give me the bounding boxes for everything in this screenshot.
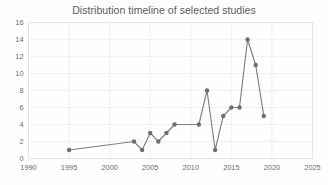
data-point-marker	[164, 131, 168, 135]
data-point-marker	[205, 88, 209, 92]
y-axis-tick-label: 12	[15, 52, 23, 61]
data-point-marker	[140, 148, 144, 152]
data-point-marker	[197, 122, 201, 126]
data-point-marker	[132, 139, 136, 143]
x-axis-tick-label: 2005	[142, 163, 158, 172]
y-axis-tick-label: 14	[15, 35, 23, 44]
x-axis-tick-label: 2000	[101, 163, 117, 172]
x-axis-tick-label: 1990	[20, 163, 36, 172]
x-axis-tick-label: 2015	[223, 163, 239, 172]
data-point-marker	[262, 114, 266, 118]
chart-container: Distribution timeline of selected studie…	[0, 0, 328, 185]
y-axis-tick-label: 8	[19, 86, 23, 95]
data-point-marker	[67, 148, 71, 152]
y-axis-tick-label: 6	[19, 103, 23, 112]
data-point-marker	[156, 139, 160, 143]
x-axis-tick-label: 2020	[264, 163, 280, 172]
data-point-marker	[148, 131, 152, 135]
data-point-marker	[254, 63, 258, 67]
x-axis-tick-label: 2010	[183, 163, 199, 172]
x-axis-tick-label: 2025	[304, 163, 320, 172]
x-axis-tick-label: 1995	[61, 163, 77, 172]
data-point-marker	[221, 114, 225, 118]
y-axis-tick-label: 4	[19, 120, 23, 129]
data-point-marker	[172, 122, 176, 126]
y-axis-tick-label: 16	[15, 18, 23, 27]
line-chart-plot: 0246810121416199019952000200520102015202…	[0, 0, 328, 185]
data-point-marker	[229, 105, 233, 109]
y-axis-tick-label: 2	[19, 137, 23, 146]
data-point-marker	[213, 148, 217, 152]
data-point-marker	[237, 105, 241, 109]
data-point-marker	[245, 37, 249, 41]
y-axis-tick-label: 10	[15, 69, 23, 78]
